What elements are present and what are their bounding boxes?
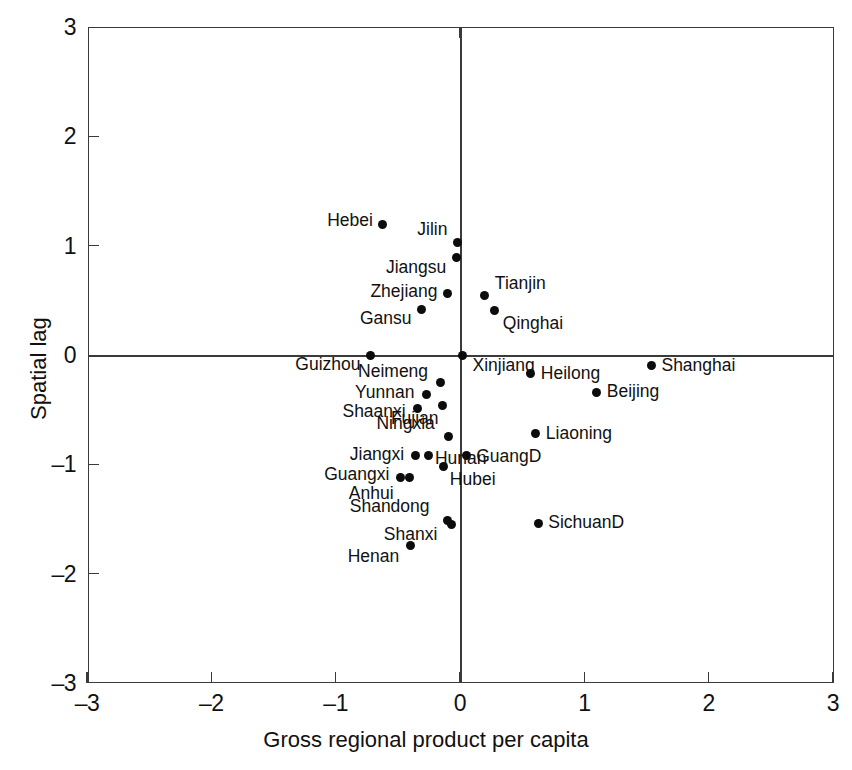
point-label: Hebei [327,212,373,230]
point-label: Jiangsu [386,259,446,277]
point-label: Guizhou [295,356,360,374]
data-point[interactable] [406,541,415,550]
data-point[interactable] [592,388,601,397]
data-point[interactable] [405,473,414,482]
point-label: Yunnan [355,385,414,403]
data-point[interactable] [396,473,405,482]
data-point[interactable] [458,351,467,360]
x-tick-label: 2 [679,690,739,717]
moran-scatterplot: –3–2–10123 3210–1–2–3 Gross regional pro… [0,0,852,770]
x-tick [211,672,213,683]
point-label: Neimeng [358,364,428,382]
point-label: Anhui [349,485,394,503]
point-label: Gansu [360,310,412,328]
x-tick-label: 0 [430,690,490,717]
data-point[interactable] [411,451,420,460]
data-point[interactable] [453,238,462,247]
y-tick-label: –2 [26,561,76,588]
x-tick-label: 1 [554,690,614,717]
data-point[interactable] [436,378,445,387]
point-label: Ningxia [376,415,434,433]
data-point[interactable] [422,390,431,399]
x-tick-label: –2 [181,690,241,717]
point-label: Heilong [541,365,600,383]
y-tick [88,136,99,138]
point-label: Jiangxi [350,446,404,464]
x-tick [708,672,710,683]
x-tick [86,672,88,683]
point-label: Jilin [417,222,447,240]
point-label: Zhejiang [370,283,437,301]
data-point[interactable] [366,351,375,360]
point-label: Hubei [450,471,496,489]
x-tick-label: 3 [803,690,852,717]
point-label: Shanghai [661,357,735,375]
data-point[interactable] [417,305,426,314]
y-tick-label: –3 [26,670,76,697]
x-tick-top [459,27,461,38]
point-label: Guangxi [324,467,389,485]
y-tick-label: 1 [26,233,76,260]
x-tick [335,672,337,683]
point-label: Hunan [435,450,487,468]
y-tick-label: –1 [26,451,76,478]
point-label: Henan [348,548,400,566]
point-label: Tianjin [495,275,546,293]
data-point[interactable] [452,253,461,262]
data-point[interactable] [534,519,543,528]
data-point[interactable] [447,520,456,529]
point-label: Liaoning [546,425,612,443]
x-tick [459,672,461,683]
data-point[interactable] [438,401,447,410]
point-label: Beijing [607,383,660,401]
y-tick [88,464,99,466]
y-tick-label: 2 [26,123,76,150]
x-tick [584,672,586,683]
y-tick [88,573,99,575]
x-tick-label: –1 [306,690,366,717]
x-tick [832,672,834,683]
point-label: Qinghai [503,315,563,333]
x-axis-title: Gross regional product per capita [0,727,852,753]
point-label: SichuanD [548,515,624,533]
data-point[interactable] [490,306,499,315]
y-axis-title: Spatial lag [26,317,52,420]
y-tick-label: 3 [26,14,76,41]
y-tick [88,245,99,247]
